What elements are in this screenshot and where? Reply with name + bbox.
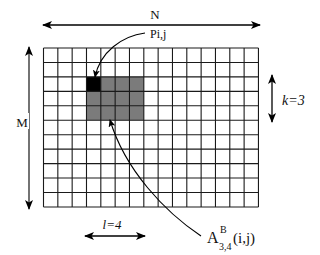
block-label-args: (i,j) — [233, 230, 255, 247]
block-label-sup: B — [220, 224, 227, 235]
block-label: A B 3,4 (i,j) — [207, 224, 255, 252]
l-label: l=4 — [103, 217, 122, 232]
pixel-cell — [86, 77, 100, 91]
block-label-sub: 3,4 — [219, 241, 232, 252]
pixel-pointer-arrow — [95, 33, 145, 77]
n-label: N — [150, 7, 160, 22]
pixel-label: Pi,j — [150, 27, 166, 41]
k-label: k=3 — [282, 93, 305, 108]
block-partition-diagram: N M k=3 l=4 Pi,j A B 3,4 (i,j) — [0, 0, 320, 255]
block-label-base: A — [207, 229, 219, 246]
m-label: M — [16, 115, 28, 130]
image-grid — [44, 48, 259, 207]
